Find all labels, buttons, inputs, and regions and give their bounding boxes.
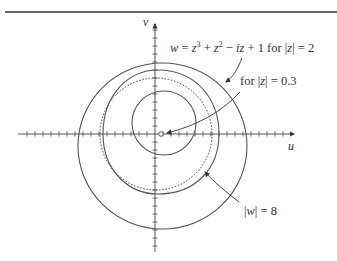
u-axis-label: u (288, 139, 294, 153)
figure-canvas: u v w = z3 + z2 − iz + 1 for |z| = 2 for… (0, 0, 337, 261)
arrow-to-small-curve (167, 92, 240, 133)
small-circle-curve (132, 91, 196, 155)
v-axis-label: v (143, 15, 149, 29)
main-equation-label: w = z3 + z2 − iz + 1 for |z| = 2 (170, 40, 314, 55)
v-axis: v (143, 15, 158, 252)
origin-point-marker (159, 132, 164, 137)
small-curve-label: for |z| = 0.3 (240, 74, 297, 88)
outer-loop-curve (78, 63, 247, 229)
arrow-to-dotted-circle (205, 172, 239, 202)
complex-mapping-figure: u v w = z3 + z2 − iz + 1 for |z| = 2 for… (0, 0, 337, 261)
circle-w-8-label: |w| = 8 (244, 204, 277, 218)
